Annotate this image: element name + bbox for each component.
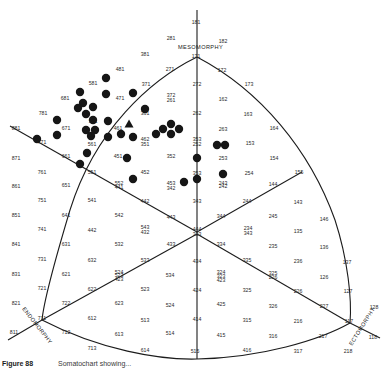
somatotype-label: 226 (269, 274, 278, 280)
somatotype-label: 351 (141, 141, 150, 147)
somatotype-label: 117 (345, 318, 353, 324)
somatotype-label: 425 (217, 301, 226, 307)
subject-dot (89, 103, 97, 111)
somatotype-grid-labels: 1812811823811714812711721735813712723722… (10, 19, 379, 354)
figure-caption-text: Somatochart showing... (58, 360, 131, 368)
somatotype-label: 128 (370, 304, 379, 310)
somatotype-label: 371 (142, 81, 151, 87)
somatotype-label: 144 (269, 181, 278, 187)
somatotype-label: 533 (141, 257, 150, 263)
somatotype-label: 811 (10, 329, 18, 335)
somatotype-label: 126 (320, 274, 329, 280)
somatotype-label: 242 (219, 183, 228, 189)
figure-caption-number: Figure 88 (2, 360, 33, 368)
subject-dot (175, 125, 183, 133)
somatotype-label: 532 (115, 241, 124, 247)
somatotype-label: 181 (192, 19, 201, 25)
subject-dot (33, 135, 41, 143)
somatotype-label: 334 (217, 241, 226, 247)
subject-dot (167, 130, 175, 138)
somatotype-label: 441 (115, 184, 124, 190)
somatotype-label: 614 (141, 347, 150, 353)
somatotype-label: 164 (270, 125, 279, 131)
somatotype-label: 871 (12, 155, 21, 161)
mesomorphy-title: MESOMORPHY (178, 44, 223, 50)
somatotype-label: 135 (294, 228, 303, 234)
somatotype-label: 613 (115, 331, 124, 337)
subject-dot (82, 110, 90, 118)
somatotype-label: 651 (62, 182, 71, 188)
somatotype-label: 711 (38, 315, 46, 321)
somatotype-label: 335 (243, 257, 252, 263)
subject-dot (129, 89, 137, 97)
somatotype-label: 352 (167, 153, 176, 159)
somatotype-label: 712 (62, 329, 71, 335)
subject-dot (74, 104, 82, 112)
subject-dot (104, 133, 112, 141)
somatotype-label: 631 (62, 241, 71, 247)
somatotype-label: 173 (245, 81, 254, 87)
somatotype-label: 333 (193, 231, 202, 237)
somatotype-label: 761 (38, 169, 47, 175)
subject-dot (159, 125, 167, 133)
subject-dot (180, 178, 188, 186)
subject-dot (123, 154, 131, 162)
somatotype-label: 281 (167, 35, 176, 41)
somatotype-label: 641 (62, 212, 71, 218)
subject-dot (87, 132, 95, 140)
somatotype-label: 171 (192, 53, 201, 59)
subject-dot (221, 141, 229, 149)
somatotype-label: 326 (269, 303, 278, 309)
somatotype-label: 443 (167, 214, 176, 220)
somatotype-label: 146 (320, 216, 329, 222)
somatotype-label: 244 (243, 198, 252, 204)
subject-dot (102, 74, 110, 82)
somatotype-label: 452 (141, 169, 150, 175)
subject-dot (129, 175, 137, 183)
somatotype-label: 514 (166, 330, 175, 336)
somatotype-label: 751 (38, 197, 47, 203)
somatotype-label: 881 (12, 125, 21, 131)
somatotype-label: 541 (88, 197, 97, 203)
somatotype-label: 623 (115, 300, 124, 306)
somatotype-label: 515 (191, 348, 200, 354)
somatotype-label: 581 (89, 80, 98, 86)
somatotype-label: 343 (244, 230, 253, 236)
somatotype-label: 551 (88, 169, 97, 175)
somatotype-label: 143 (294, 199, 303, 205)
somatotype-label: 344 (217, 213, 226, 219)
somatotype-label: 731 (38, 256, 47, 262)
somatotype-label: 136 (320, 244, 329, 250)
subject-dot (53, 116, 61, 124)
subject-dot (213, 141, 221, 149)
subject-dot (193, 154, 201, 162)
somatotype-label: 316 (269, 333, 278, 339)
subject-dot (76, 160, 84, 168)
somatotype-label: 722 (62, 300, 71, 306)
somatotype-label: 661 (62, 153, 71, 159)
triangle-marker (125, 120, 134, 128)
somatotype-label: 342 (167, 185, 176, 191)
somatotype-label: 524 (166, 302, 175, 308)
somatotype-label: 153 (246, 140, 255, 146)
somatotype-label: 721 (38, 285, 47, 291)
somatotype-label: 434 (193, 258, 202, 264)
somatotype-label: 325 (243, 287, 252, 293)
somatotype-label: 831 (12, 271, 21, 277)
somatotype-label: 622 (88, 286, 97, 292)
somatotype-label: 245 (269, 213, 278, 219)
somatotype-label: 343 (193, 198, 202, 204)
somatotype-label: 253 (219, 155, 228, 161)
subject-dot (129, 133, 137, 141)
somatotype-label: 381 (141, 51, 150, 57)
somatotype-label: 118 (369, 334, 377, 340)
somatotype-label: 172 (218, 67, 227, 73)
subject-dot (219, 170, 227, 178)
somatotype-label: 315 (243, 317, 252, 323)
subject-dot (104, 117, 112, 125)
somatotype-label: 271 (166, 66, 175, 72)
somatotype-label: 423 (115, 276, 124, 282)
somatotype-label: 781 (39, 110, 48, 116)
somatotype-label: 254 (245, 170, 254, 176)
somatotype-label: 851 (12, 212, 21, 218)
